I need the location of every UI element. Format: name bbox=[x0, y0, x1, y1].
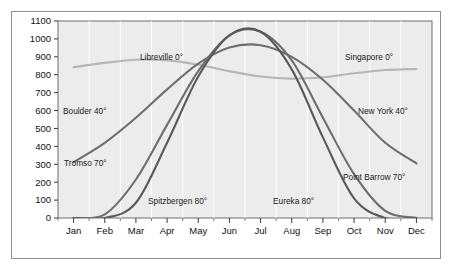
x-tick-label: Jun bbox=[222, 225, 237, 236]
y-tick-label: 600 bbox=[35, 105, 51, 116]
series-label: New York 40° bbox=[358, 106, 408, 116]
chart-plot: 110010009008007006005004003002001000JanF… bbox=[11, 11, 441, 259]
y-tick-label: 200 bbox=[35, 177, 51, 188]
x-tick-label: Nov bbox=[377, 225, 394, 236]
x-tick-label: Sep bbox=[314, 225, 331, 236]
x-tick-label: Jan bbox=[66, 225, 81, 236]
series-label: Point Barrow 70° bbox=[343, 172, 405, 182]
y-tick-label: 1100 bbox=[31, 15, 51, 26]
y-tick-label: 700 bbox=[35, 87, 51, 98]
x-tick-label: May bbox=[189, 225, 207, 236]
y-tick-label: 0 bbox=[46, 212, 51, 223]
y-tick-label: 1000 bbox=[30, 33, 51, 44]
figure-container: Langleys per day Month 11001000900800700… bbox=[0, 0, 452, 274]
y-tick-label: 100 bbox=[35, 194, 51, 205]
x-tick-label: Dec bbox=[408, 225, 425, 236]
x-tick-label: Aug bbox=[283, 225, 300, 236]
x-tick-label: Mar bbox=[128, 225, 144, 236]
y-tick-label: 800 bbox=[35, 69, 51, 80]
y-tick-label: 400 bbox=[35, 141, 51, 152]
series-label: Boulder 40° bbox=[63, 106, 106, 116]
x-tick-label: Feb bbox=[97, 225, 113, 236]
series-label: Tromso 70° bbox=[64, 158, 107, 168]
series-label: Spitzbergen 80° bbox=[148, 196, 207, 206]
x-tick-label: Jul bbox=[255, 225, 267, 236]
series-label: Singapore 0° bbox=[345, 52, 393, 62]
y-tick-label: 300 bbox=[35, 159, 51, 170]
x-tick-label: Apr bbox=[160, 225, 175, 236]
y-tick-label: 900 bbox=[35, 51, 51, 62]
x-tick-label: Oct bbox=[347, 225, 362, 236]
series-label: Eureka 80° bbox=[273, 196, 314, 206]
y-tick-label: 500 bbox=[35, 123, 51, 134]
series-label: Libreville 0° bbox=[140, 52, 183, 62]
